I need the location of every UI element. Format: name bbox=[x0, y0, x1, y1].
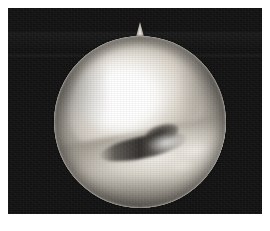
arthroscopic-field bbox=[54, 36, 226, 208]
lower-shadow-gradient bbox=[54, 163, 226, 208]
photo-frame bbox=[8, 8, 262, 214]
scope-field-wrapper bbox=[50, 20, 230, 212]
left-shadow-gradient bbox=[54, 39, 106, 146]
caption bbox=[8, 216, 262, 230]
right-shadow-gradient bbox=[181, 36, 226, 132]
image-viewport bbox=[0, 0, 270, 231]
